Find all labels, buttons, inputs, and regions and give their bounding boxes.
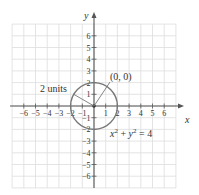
y-tick-label: −4 xyxy=(82,149,91,158)
x-axis-arrow-icon xyxy=(178,104,184,109)
y-tick-label: 6 xyxy=(87,32,91,41)
x-tick-label: 6 xyxy=(162,109,166,118)
y-tick-label: 1 xyxy=(87,90,91,99)
y-tick-label: 3 xyxy=(87,67,91,76)
x-tick-label: 5 xyxy=(151,109,155,118)
y-tick-label: 4 xyxy=(87,55,91,64)
axes xyxy=(10,12,184,188)
y-tick-label: −5 xyxy=(82,161,91,170)
x-tick-label: −6 xyxy=(20,109,29,118)
coordinate-plane: −6−5−4−3−2−1123456−6−5−4−3−2−1123456 x y… xyxy=(0,0,199,195)
x-tick-label: 3 xyxy=(127,109,131,118)
x-axis-label: x xyxy=(184,114,190,125)
x-tick-label: 4 xyxy=(139,109,143,118)
x-tick-label: −4 xyxy=(43,109,52,118)
equation-label: x2 + y2 = 4 xyxy=(109,127,152,139)
y-tick-label: 5 xyxy=(87,44,91,53)
y-tick-label: −6 xyxy=(82,172,91,181)
x-tick-label: −5 xyxy=(31,109,40,118)
y-tick-label: −3 xyxy=(82,137,91,146)
x-tick-label: 1 xyxy=(104,109,108,118)
y-axis-arrow-icon xyxy=(92,12,97,18)
radius-label: 2 units xyxy=(40,83,67,94)
radius-line xyxy=(74,94,94,106)
x-tick-label: −3 xyxy=(55,109,64,118)
center-point-label: (0, 0) xyxy=(110,71,132,83)
y-axis-label: y xyxy=(83,10,89,21)
y-tick-label: −1 xyxy=(82,114,91,123)
